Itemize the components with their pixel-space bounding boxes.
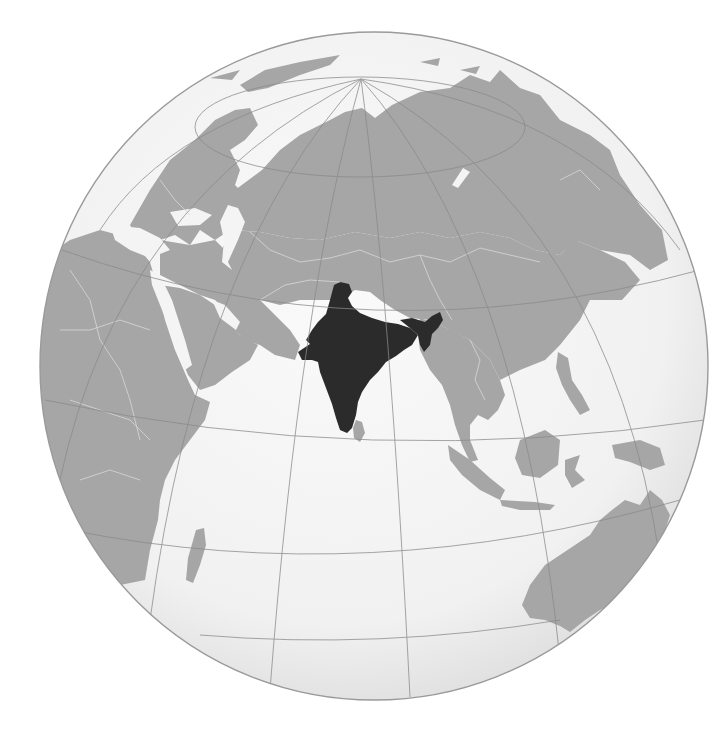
globe-map — [0, 0, 720, 731]
